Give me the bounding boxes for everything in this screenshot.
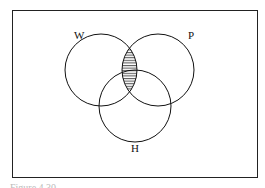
label-w: W — [74, 29, 84, 41]
venn-diagram — [0, 0, 265, 188]
figure-caption: Figure 4.30 — [10, 182, 56, 188]
label-h: H — [131, 142, 139, 154]
label-p: P — [188, 29, 194, 41]
